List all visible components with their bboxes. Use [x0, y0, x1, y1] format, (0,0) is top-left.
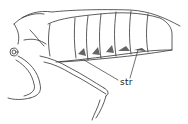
str-label: str	[120, 77, 133, 87]
figure-canvas: str	[0, 0, 188, 124]
insect-drawing	[0, 0, 188, 124]
